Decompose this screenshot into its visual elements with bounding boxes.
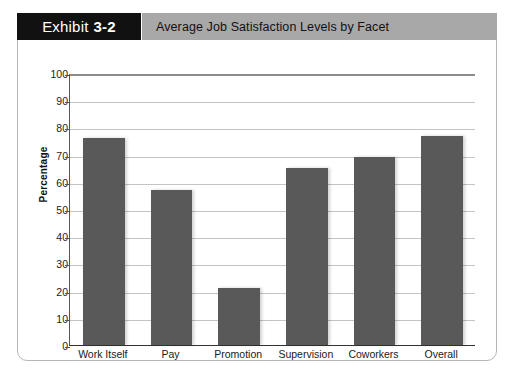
bar-series: [70, 75, 475, 345]
chart-plot-region: Percentage 0102030405060708090100 Work I…: [18, 41, 496, 360]
x-axis-tick-label: Work Itself: [78, 348, 127, 360]
x-axis-tick-label: Overall: [425, 348, 458, 360]
plot-area: [69, 74, 475, 346]
bar: [218, 288, 260, 345]
y-axis-tick-label: 70: [56, 150, 68, 162]
exhibit-title-bar: Average Job Satisfaction Levels by Facet: [141, 13, 497, 40]
bar: [83, 138, 125, 345]
y-axis-tick-label: 40: [56, 231, 68, 243]
y-axis-tick-label: 90: [56, 95, 68, 107]
y-axis-tick-label: 100: [50, 68, 68, 80]
y-axis-tick-label: 80: [56, 122, 68, 134]
x-axis-tick-labels: Work ItselfPayPromotionSupervisionCowork…: [69, 348, 475, 368]
x-axis-tick-label: Promotion: [214, 348, 262, 360]
chart-title: Average Job Satisfaction Levels by Facet: [142, 20, 389, 34]
y-axis-tick-label: 20: [56, 286, 68, 298]
x-axis-tick-label: Pay: [161, 348, 179, 360]
bar: [354, 157, 396, 345]
exhibit-header: Exhibit 3-2 Average Job Satisfaction Lev…: [17, 13, 497, 40]
y-axis-tick-labels: 0102030405060708090100: [36, 74, 68, 346]
x-axis-tick-label: Coworkers: [348, 348, 398, 360]
bar: [151, 190, 193, 345]
exhibit-tag-word: Exhibit: [42, 18, 88, 35]
y-axis-tick-label: 0: [62, 340, 68, 352]
exhibit-tag: Exhibit 3-2: [17, 13, 141, 40]
y-axis-tick-label: 30: [56, 258, 68, 270]
bar: [286, 168, 328, 345]
bar: [421, 136, 463, 345]
y-axis-tick-label: 50: [56, 204, 68, 216]
exhibit-tag-number: 3-2: [94, 18, 116, 35]
x-axis-tick-label: Supervision: [278, 348, 333, 360]
y-axis-tick-label: 10: [56, 313, 68, 325]
y-axis-tick-label: 60: [56, 177, 68, 189]
exhibit-card: Exhibit 3-2 Average Job Satisfaction Lev…: [17, 13, 497, 361]
